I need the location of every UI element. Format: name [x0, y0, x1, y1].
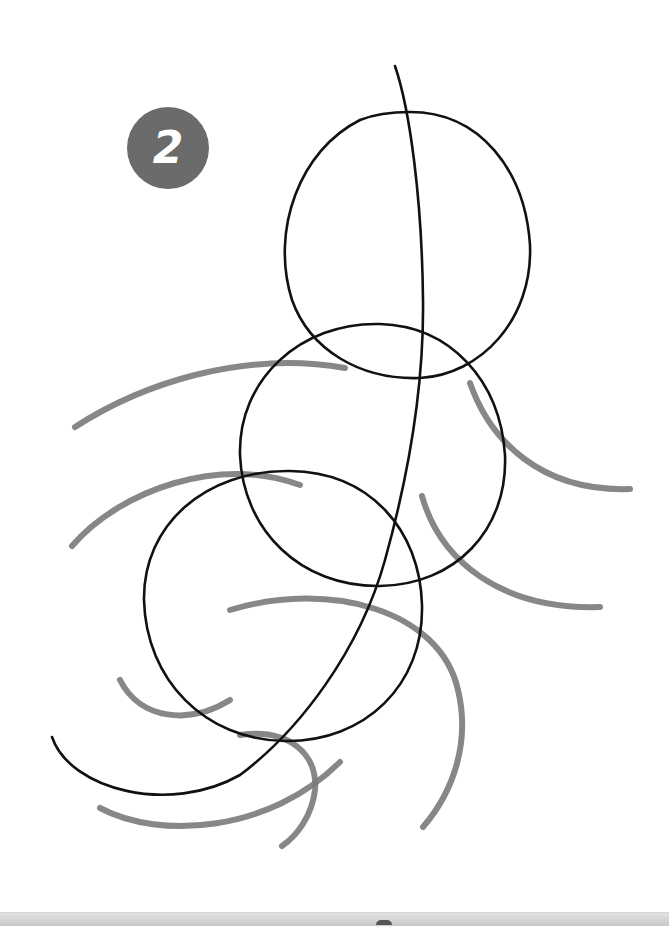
guide-arc-bottom-long	[230, 599, 462, 827]
bottom-circle	[144, 471, 422, 741]
guide-arc-upper-right	[470, 383, 630, 489]
guide-arc-mid-left	[72, 474, 300, 546]
step-number-badge: 2	[127, 107, 209, 189]
bottom-bar	[0, 912, 669, 926]
guide-arc-bottom-small	[120, 680, 230, 715]
top-circle	[285, 112, 530, 378]
step-number: 2	[153, 126, 184, 170]
bottom-tab-marker	[376, 920, 392, 925]
spine-line	[52, 66, 423, 795]
guide-arc-mid-right	[422, 496, 600, 607]
guide-arc-upper-left	[75, 363, 345, 427]
